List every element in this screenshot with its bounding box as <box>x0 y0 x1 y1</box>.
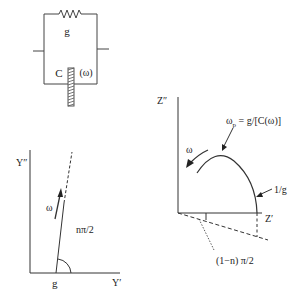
angle-label: nπ/2 <box>76 224 94 235</box>
g-intercept-label: g <box>52 277 58 289</box>
diagram-canvas: g C (ω) Y″ Y′ g nπ/2 ω Z″ Z′ ωp = g/[C(ω… <box>0 0 301 302</box>
admittance-line-dashed <box>64 152 72 203</box>
peak-frequency-label: ωp = g/[C(ω)] <box>226 115 281 129</box>
depression-angle-label: (1−n) π/2 <box>216 255 254 267</box>
angle-leader <box>199 219 214 250</box>
z-imag-axis-label: Z″ <box>157 95 167 106</box>
omega-arrow-shaft <box>55 195 60 219</box>
intercept-arrow-head <box>256 192 263 197</box>
capacitor-arg-label: (ω) <box>79 67 92 79</box>
peak-leader <box>224 128 233 146</box>
z-real-axis-label: Z′ <box>265 213 273 224</box>
y-imag-axis-label: Y″ <box>16 157 27 168</box>
resistor-wire <box>44 10 97 51</box>
impedance-arc <box>197 156 257 213</box>
admittance-plot <box>30 150 120 273</box>
omega-arrow-head <box>58 188 64 197</box>
omega-direction-label-z: ω <box>186 144 193 155</box>
depressed-baseline <box>178 213 268 240</box>
intercept-label: 1/g <box>274 184 287 195</box>
equivalent-circuit <box>33 10 109 106</box>
capacitor-label: C <box>55 67 62 79</box>
admittance-line <box>56 203 64 273</box>
y-real-axis-label: Y′ <box>112 277 121 288</box>
omega-direction-label: ω <box>46 202 53 213</box>
angle-arc <box>58 259 71 273</box>
omega-arc-arrow <box>190 150 208 163</box>
resistor-label: g <box>64 25 70 37</box>
